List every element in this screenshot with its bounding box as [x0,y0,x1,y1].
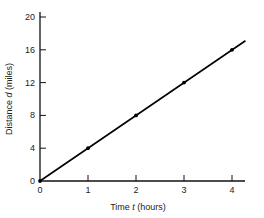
x-tick-label: 2 [133,185,138,195]
y-axis-label: Distance d (miles) [4,63,14,135]
series-line [40,41,245,181]
x-tick-label: 3 [181,185,186,195]
x-tick-label: 0 [37,185,42,195]
data-point-marker [134,114,138,118]
y-tick-label: 0 [30,176,35,186]
y-tick-label: 4 [30,143,35,153]
y-tick-label: 20 [25,12,35,22]
data-point-marker [230,48,234,52]
x-tick-label: 4 [229,185,234,195]
y-tick-label: 12 [25,78,35,88]
data-series [38,41,245,183]
axes [40,12,245,181]
y-tick-label: 8 [30,110,35,120]
distance-time-chart: 01234048121620 Time t (hours) Distance d… [0,0,264,218]
ticks: 01234048121620 [25,12,235,195]
data-point-marker [86,146,90,150]
x-axis-label: Time t (hours) [110,202,166,212]
y-tick-label: 16 [25,45,35,55]
x-tick-label: 1 [85,185,90,195]
data-point-marker [182,81,186,85]
data-point-marker [38,179,42,183]
